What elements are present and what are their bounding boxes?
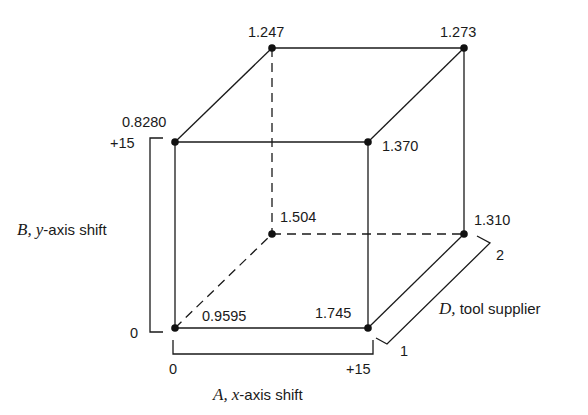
cube-diagram: 1.247 1.273 0.8280 1.370 1.504 1.310 0.9… (0, 0, 588, 415)
value-front-top-right: 1.370 (382, 138, 418, 154)
value-back-top-right: 1.273 (440, 24, 476, 40)
edge-top-right-depth (368, 48, 464, 142)
a-axis-label: A, x-axis shift (212, 385, 304, 404)
d-axis-low-tick: 1 (400, 343, 408, 359)
vertex-back-bottom-right (460, 230, 468, 238)
b-axis-label: B, y-axis shift (17, 220, 108, 239)
d-axis-high-tick: 2 (496, 247, 504, 263)
vertex-front-bottom-left (171, 324, 179, 332)
vertex-front-top-right (364, 138, 372, 146)
vertex-front-bottom-right (364, 324, 372, 332)
edge-top-left-depth (175, 48, 272, 142)
value-back-bottom-right: 1.310 (474, 212, 510, 228)
value-front-top-left: 0.8280 (122, 114, 166, 130)
a-axis-bracket (173, 340, 373, 354)
b-axis-bracket (150, 138, 163, 332)
vertex-back-bottom-left (268, 230, 276, 238)
value-back-bottom-left: 1.504 (280, 209, 316, 225)
value-front-bottom-left: 0.9595 (202, 308, 246, 324)
a-axis-high-tick: +15 (346, 361, 371, 377)
b-axis-high-tick: +15 (110, 135, 135, 151)
a-axis-low-tick: 0 (169, 361, 177, 377)
vertex-back-top-left (268, 44, 276, 52)
d-axis-label: D, tool supplier (438, 299, 541, 318)
value-front-bottom-right: 1.745 (315, 305, 351, 321)
vertex-front-top-left (171, 138, 179, 146)
vertex-back-top-right (460, 44, 468, 52)
value-back-top-left: 1.247 (248, 24, 284, 40)
d-axis-bracket (376, 236, 490, 344)
b-axis-low-tick: 0 (130, 325, 138, 341)
